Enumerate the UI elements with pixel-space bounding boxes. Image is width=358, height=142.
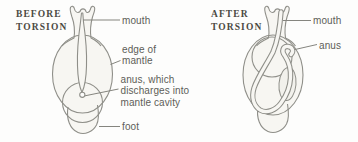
after-heading-line2: TORSION bbox=[211, 22, 262, 32]
torsion-diagram: BEFORE TORSION mouth edge of mantle anus… bbox=[0, 0, 358, 142]
after-anus-label: anus bbox=[319, 40, 341, 52]
before-anus-label-line3: mantle cavity bbox=[121, 97, 181, 109]
before-edge-of-mantle-label-line1: edge of bbox=[122, 44, 156, 56]
before-anus-opening bbox=[80, 92, 85, 97]
before-anus-label-line1: anus, which bbox=[121, 74, 175, 86]
before-anus-label-line2: discharges into bbox=[121, 85, 190, 97]
before-heading-line1: BEFORE bbox=[16, 9, 62, 19]
before-edge-of-mantle-label-line2: mantle bbox=[122, 55, 153, 67]
before-mouth-label: mouth bbox=[122, 15, 150, 27]
after-anus-leader-line bbox=[295, 45, 317, 50]
before-edge-of-mantle-leader-line bbox=[111, 61, 121, 65]
before-heading-line2: TORSION bbox=[16, 22, 67, 32]
after-mouth-label: mouth bbox=[313, 15, 341, 27]
after-heading-line1: AFTER bbox=[211, 9, 249, 19]
before-foot-label: foot bbox=[122, 121, 139, 133]
